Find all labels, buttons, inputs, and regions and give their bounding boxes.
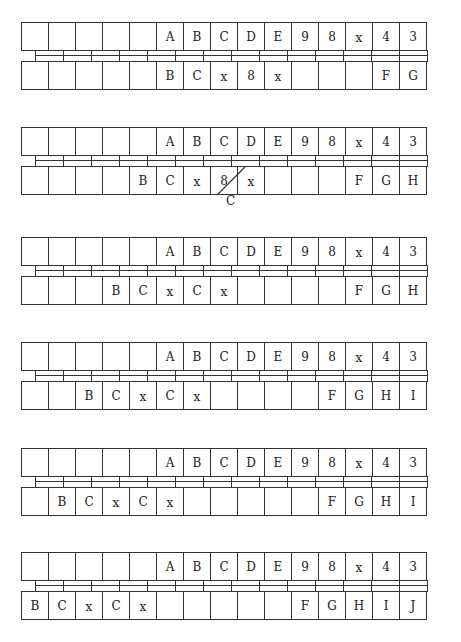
top-row-cell: 8	[318, 127, 346, 156]
bottom-row-cell: H	[399, 166, 427, 195]
top-row-cell: 3	[399, 237, 427, 266]
bottom-row-cell: C	[183, 276, 211, 305]
top-row-cell	[129, 237, 157, 266]
top-row-cell: E	[264, 342, 292, 371]
top-row-cell: 3	[399, 448, 427, 477]
connector-tick	[343, 155, 344, 167]
connector-tick	[287, 155, 288, 167]
connector-tick	[91, 476, 92, 488]
top-row-cell: 8	[318, 552, 346, 581]
top-row-cell	[48, 552, 76, 581]
connector-tick	[147, 580, 148, 592]
connector-tick	[231, 265, 232, 277]
top-row-cell: C	[210, 552, 238, 581]
bottom-row-cell: 8	[237, 61, 265, 90]
connector-tick	[175, 50, 176, 62]
top-row-cell: C	[210, 127, 238, 156]
top-row-cell: 9	[291, 448, 319, 477]
top-row: ABCDE98x43	[21, 127, 441, 156]
cell-array-group-3: ABCDE98x43BCxCxFGH	[21, 237, 441, 305]
top-row-cell: C	[210, 237, 238, 266]
top-row-cell: B	[183, 22, 211, 51]
connector-tick	[399, 580, 400, 592]
top-row-cell: B	[183, 448, 211, 477]
top-row-cell: E	[264, 127, 292, 156]
connector-tick	[259, 265, 260, 277]
connector-tick	[343, 476, 344, 488]
connector-tick	[427, 370, 428, 382]
top-row-cell: D	[237, 552, 265, 581]
connector-tick	[119, 50, 120, 62]
top-row-cell	[75, 237, 103, 266]
top-row-cell: 9	[291, 237, 319, 266]
connector-tick	[147, 50, 148, 62]
bottom-row-cell: I	[399, 381, 427, 410]
bottom-row-cell	[210, 487, 238, 516]
top-row-cell	[102, 237, 130, 266]
connector-tick	[119, 476, 120, 488]
connector-tick	[175, 476, 176, 488]
top-row-cell: 4	[372, 127, 400, 156]
connector-tick	[427, 265, 428, 277]
connector-strip	[21, 265, 441, 277]
bottom-row-cell	[291, 61, 319, 90]
top-row-cell	[129, 22, 157, 51]
top-row-cell: D	[237, 127, 265, 156]
replacement-label: C	[226, 194, 235, 208]
top-row-cell: C	[210, 22, 238, 51]
connector-tick	[287, 580, 288, 592]
connector-tick	[259, 370, 260, 382]
top-row: ABCDE98x43	[21, 448, 441, 477]
connector-tick	[399, 476, 400, 488]
bottom-row-cell: C	[75, 487, 103, 516]
bottom-row-cell: x	[129, 381, 157, 410]
bottom-row-cell: G	[345, 381, 373, 410]
top-row-cell: 8	[318, 342, 346, 371]
top-row-cell: 3	[399, 22, 427, 51]
top-row-cell: A	[156, 237, 184, 266]
top-row-cell: E	[264, 22, 292, 51]
connector-tick	[231, 50, 232, 62]
connector-tick	[35, 370, 36, 382]
top-row-cell: E	[264, 448, 292, 477]
bottom-row: BCx8xFGH	[21, 166, 441, 195]
bottom-row: BCx8xFG	[21, 61, 441, 90]
connector-tick	[399, 155, 400, 167]
bottom-row-cell: x	[210, 61, 238, 90]
bottom-row-cell: J	[399, 591, 427, 620]
connector-tick	[63, 580, 64, 592]
top-row-cell: A	[156, 22, 184, 51]
connector-tick	[175, 265, 176, 277]
bottom-row-cell: x	[237, 166, 265, 195]
connector-tick	[175, 580, 176, 592]
bottom-row-cell	[75, 61, 103, 90]
top-row-cell	[21, 237, 49, 266]
top-row-cell: B	[183, 127, 211, 156]
top-row-cell	[48, 22, 76, 51]
bottom-row-cell	[264, 381, 292, 410]
connector-tick	[35, 50, 36, 62]
connector-tick	[147, 370, 148, 382]
bottom-row-cell: H	[345, 591, 373, 620]
bottom-row-cell	[102, 61, 130, 90]
bottom-row-cell: H	[372, 487, 400, 516]
top-row-cell	[102, 552, 130, 581]
connector-strip	[21, 476, 441, 488]
connector-tick	[203, 50, 204, 62]
bottom-row-cell: G	[345, 487, 373, 516]
bottom-row: BCxCxFGHI	[21, 487, 441, 516]
bottom-row-cell	[237, 381, 265, 410]
connector-tick	[231, 580, 232, 592]
bottom-row-cell	[21, 166, 49, 195]
top-row-cell: 8	[318, 448, 346, 477]
bottom-row-cell	[21, 381, 49, 410]
top-row-cell: 4	[372, 22, 400, 51]
top-row-cell	[21, 448, 49, 477]
connector-tick	[203, 476, 204, 488]
connector-tick	[259, 580, 260, 592]
bottom-row-cell: I	[372, 591, 400, 620]
connector-tick	[343, 580, 344, 592]
connector-tick	[259, 476, 260, 488]
connector-tick	[315, 476, 316, 488]
bottom-row-cell	[291, 381, 319, 410]
